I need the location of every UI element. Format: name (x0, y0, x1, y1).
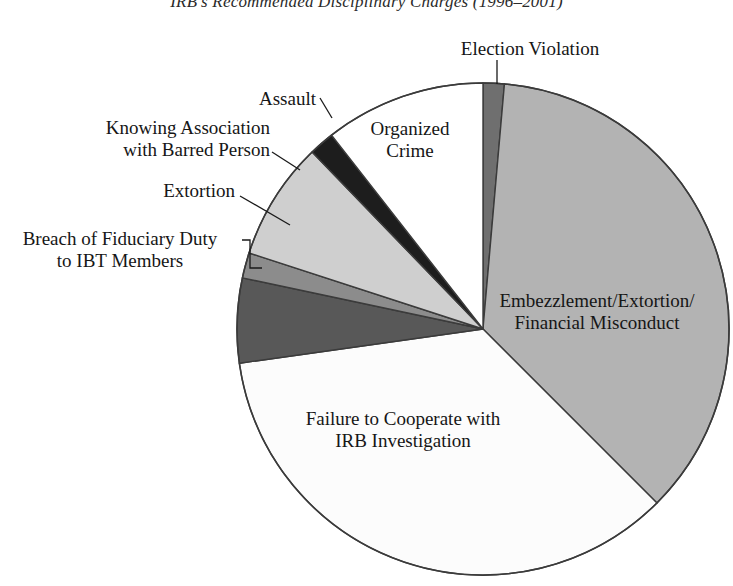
slice-label-organized-crime: Organized Crime (325, 118, 495, 163)
callout-label-assault: Assault (160, 88, 316, 110)
slice-label-failure-to-cooperate-line2: IRB Investigation (278, 430, 528, 452)
slice-label-embezzlement-line2: Financial Misconduct (472, 312, 722, 334)
slice-label-failure-to-cooperate-line1: Failure to Cooperate with (278, 408, 528, 430)
callout-label-election-violation: Election Violation (420, 38, 640, 60)
callout-label-breach-fiduciary-duty: Breach of Fiduciary Duty to IBT Members (0, 228, 240, 273)
callout-label-breach-fiduciary-duty-line2: to IBT Members (0, 250, 240, 272)
callout-label-knowing-association-line2: with Barred Person (10, 139, 270, 161)
callout-label-extortion: Extortion (60, 180, 235, 202)
slice-label-organized-crime-line1: Organized (325, 118, 495, 140)
callout-label-knowing-association: Knowing Association with Barred Person (10, 117, 270, 162)
slice-label-embezzlement-line1: Embezzlement/Extortion/ (472, 290, 722, 312)
pie-chart-figure: IRB's Recommended Disciplinary Charges (… (0, 0, 733, 586)
leader-line-assault (320, 98, 332, 118)
callout-label-breach-fiduciary-duty-line1: Breach of Fiduciary Duty (0, 228, 240, 250)
slice-label-organized-crime-line2: Crime (325, 140, 495, 162)
callout-label-assault-line1: Assault (160, 88, 316, 110)
slice-label-failure-to-cooperate: Failure to Cooperate with IRB Investigat… (278, 408, 528, 453)
leader-line-knowing-association (272, 152, 300, 170)
slice-label-embezzlement: Embezzlement/Extortion/ Financial Miscon… (472, 290, 722, 335)
callout-label-election-violation-line1: Election Violation (420, 38, 640, 60)
callout-label-knowing-association-line1: Knowing Association (10, 117, 270, 139)
callout-label-extortion-line1: Extortion (60, 180, 235, 202)
